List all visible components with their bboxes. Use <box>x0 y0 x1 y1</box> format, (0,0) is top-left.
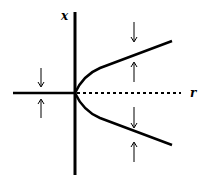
r-axis-label: r <box>190 86 198 100</box>
bifurcation-diagram: x r <box>0 0 207 181</box>
arrow-up-icon <box>38 99 44 118</box>
arrow-down-icon <box>131 107 137 128</box>
arrow-down-icon <box>131 22 137 42</box>
arrow-up-icon <box>131 142 137 162</box>
arrow-up-icon <box>131 62 137 82</box>
x-axis-label: x <box>60 9 69 23</box>
upper-stable-branch <box>75 41 172 93</box>
arrow-down-icon <box>38 68 44 87</box>
lower-stable-branch <box>75 93 172 145</box>
